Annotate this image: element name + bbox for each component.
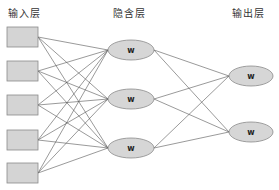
hidden-node: w (108, 40, 154, 60)
hidden-node: w (108, 138, 154, 158)
output-node-label: w (247, 72, 255, 81)
edges-hidden-output (154, 50, 229, 148)
hidden-node-label: w (127, 144, 135, 153)
output-layer: w w (229, 66, 273, 142)
input-layer (7, 27, 38, 183)
neural-network-diagram: w w w w w (0, 0, 279, 190)
hidden-layer: w w w (108, 40, 154, 158)
input-node (7, 61, 38, 81)
hidden-node: w (108, 89, 154, 109)
input-node (7, 163, 38, 183)
hidden-node-label: w (127, 95, 135, 104)
input-node (7, 130, 38, 150)
output-node: w (229, 122, 273, 142)
hidden-node-label: w (127, 46, 135, 55)
input-node (7, 95, 38, 115)
input-node (7, 27, 38, 47)
output-node: w (229, 66, 273, 86)
output-node-label: w (247, 128, 255, 137)
edges-input-hidden (38, 37, 108, 173)
